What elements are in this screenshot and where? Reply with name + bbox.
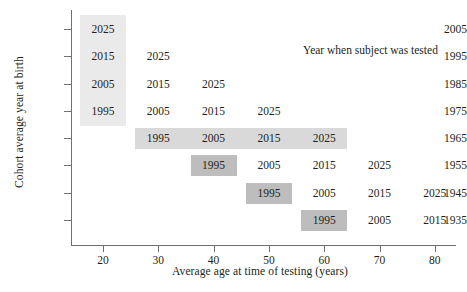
x-axis-title: Average age at time of testing (years)	[60, 265, 460, 277]
y-axis-tick-label: 1955	[405, 159, 467, 171]
x-axis-tick	[435, 245, 436, 252]
data-cell: 2015	[80, 50, 126, 63]
x-axis-tick	[324, 245, 325, 252]
data-cell: 2015	[191, 105, 237, 118]
cohort-testing-chart: 20051995198519751965195519451935 2030405…	[0, 0, 467, 292]
y-axis-tick	[64, 138, 71, 139]
data-cell: 1995	[135, 132, 181, 145]
y-axis-tick-label: 1965	[405, 132, 467, 144]
x-axis-tick	[103, 245, 104, 252]
y-axis-tick	[64, 56, 71, 57]
data-cell: 1995	[301, 214, 347, 227]
y-axis-tick	[64, 220, 71, 221]
data-cell: 2015	[135, 78, 181, 91]
y-axis-tick-label: 1975	[405, 105, 467, 117]
data-cell: 2015	[357, 187, 403, 200]
x-axis-tick	[214, 245, 215, 252]
data-cell: 2015	[301, 159, 347, 172]
y-axis-tick	[64, 84, 71, 85]
y-axis-tick	[64, 165, 71, 166]
data-cell: 1995	[80, 105, 126, 118]
data-cell: 2025	[246, 105, 292, 118]
data-cell: 2015	[412, 214, 458, 227]
data-cell: 2025	[412, 187, 458, 200]
data-cell: 2025	[80, 23, 126, 36]
data-cell: 2005	[191, 132, 237, 145]
y-axis-tick	[64, 111, 71, 112]
data-cell: 1995	[191, 159, 237, 172]
data-cell: 2025	[135, 50, 181, 63]
data-cell: 2025	[191, 78, 237, 91]
x-axis-tick	[158, 245, 159, 252]
x-axis-tick	[380, 245, 381, 252]
chart-annotation: Year when subject was tested	[303, 44, 438, 57]
data-cell: 2005	[301, 187, 347, 200]
x-axis-line	[71, 245, 456, 246]
y-axis-tick	[64, 193, 71, 194]
data-cell: 2025	[357, 159, 403, 172]
data-cell: 2005	[357, 214, 403, 227]
y-axis-tick-label: 1985	[405, 78, 467, 90]
data-cell: 2005	[80, 78, 126, 91]
y-axis-title: Cohort average year at birth	[13, 22, 25, 222]
data-cell: 2025	[301, 132, 347, 145]
data-cell: 1995	[246, 187, 292, 200]
x-axis-tick	[269, 245, 270, 252]
data-cell: 2015	[246, 132, 292, 145]
y-axis-line	[71, 10, 72, 245]
data-cell: 2005	[135, 105, 181, 118]
data-cell: 2005	[246, 159, 292, 172]
y-axis-tick-label: 2005	[405, 23, 467, 35]
y-axis-tick	[64, 29, 71, 30]
